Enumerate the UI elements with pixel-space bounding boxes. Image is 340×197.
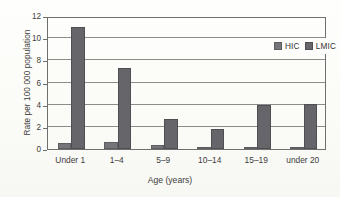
bar-lmic-2 bbox=[164, 119, 178, 149]
bar-lmic-1 bbox=[118, 68, 132, 149]
y-axis-tick-label: 4 bbox=[15, 102, 41, 110]
legend-swatch-icon bbox=[274, 42, 282, 50]
gridline bbox=[48, 126, 325, 127]
y-axis-tick-label: 12 bbox=[15, 13, 41, 21]
bar-hic-5 bbox=[290, 147, 304, 149]
chart-figure: Rate per 100 000 population 024681012 HI… bbox=[0, 0, 340, 197]
x-axis-tick-label: Under 1 bbox=[47, 156, 94, 164]
gridline bbox=[48, 59, 325, 60]
bar-hic-3 bbox=[197, 147, 211, 149]
plot-area: HICLMIC bbox=[47, 17, 326, 150]
bar-hic-1 bbox=[104, 142, 118, 149]
bar-lmic-4 bbox=[257, 105, 271, 149]
legend-label: LMIC bbox=[316, 42, 336, 51]
legend-swatch-icon bbox=[305, 42, 313, 50]
gridline bbox=[48, 82, 325, 83]
y-axis-tick-label: 0 bbox=[15, 146, 41, 154]
x-axis-tick-label: 1–4 bbox=[94, 156, 141, 164]
legend-entry-lmic: LMIC bbox=[305, 42, 336, 51]
y-axis-tick-label: 8 bbox=[15, 57, 41, 65]
x-axis-tick-label: 10–14 bbox=[187, 156, 234, 164]
y-axis-tick-mark bbox=[43, 150, 47, 151]
legend-entry-hic: HIC bbox=[274, 42, 300, 51]
bar-hic-2 bbox=[151, 145, 165, 149]
x-axis-title: Age (years) bbox=[0, 175, 340, 185]
bar-lmic-3 bbox=[211, 129, 225, 149]
gridline bbox=[48, 104, 325, 105]
y-axis-tick-label: 6 bbox=[15, 80, 41, 88]
bar-hic-4 bbox=[244, 147, 258, 149]
chart-legend: HICLMIC bbox=[270, 38, 340, 54]
x-axis-tick-label: under 20 bbox=[280, 156, 327, 164]
bar-hic-0 bbox=[58, 143, 72, 149]
x-axis-tick-label: 15–19 bbox=[233, 156, 280, 164]
legend-label: HIC bbox=[285, 42, 300, 51]
x-axis-tick-label: 5–9 bbox=[140, 156, 187, 164]
bar-lmic-0 bbox=[71, 27, 85, 149]
bar-lmic-5 bbox=[304, 104, 318, 149]
y-axis-tick-label: 10 bbox=[15, 35, 41, 43]
y-axis-tick-label: 2 bbox=[15, 124, 41, 132]
